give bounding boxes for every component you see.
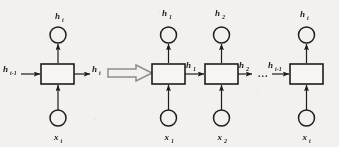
rnn-unrolling-diagram: h t h t-1 h t x t <box>0 0 339 147</box>
step-2-state-out-sub: 2 <box>245 66 249 72</box>
folded-rnn-cell <box>41 64 74 84</box>
step-last-rnn-cell <box>290 64 323 84</box>
folded-output-label-base: h <box>55 11 60 21</box>
folded-input-label-base: x <box>53 132 59 142</box>
step-last-input-base: x <box>302 132 308 142</box>
step-2-output-base: h <box>215 8 220 18</box>
diagram-canvas: h t h t-1 h t x t <box>0 0 339 147</box>
step-1-state-out-sub: 1 <box>193 66 196 72</box>
step-2-input-base: x <box>217 132 223 142</box>
step-1-rnn-cell <box>152 64 185 84</box>
step-2-state-out-base: h <box>239 60 244 70</box>
step-2-output-sub: 2 <box>221 14 225 20</box>
step-last-output-base: h <box>300 9 305 19</box>
step-1-output-base: h <box>162 8 167 18</box>
step-last-state-in-sub: t-1 <box>275 66 282 72</box>
step-2-rnn-cell <box>205 64 238 84</box>
folded-state-out-base: h <box>92 64 97 74</box>
folded-state-in-base: h <box>3 64 8 74</box>
step-1-state-out-base: h <box>186 60 191 70</box>
sequence-ellipsis: ... <box>258 68 269 79</box>
step-1-output-sub: 1 <box>169 14 172 20</box>
step-last-state-in-base: h <box>268 60 273 70</box>
folded-state-in-sub: t-1 <box>10 70 17 76</box>
step-2-input-sub: 2 <box>223 138 227 144</box>
step-1-input-sub: 1 <box>171 138 174 144</box>
step-1-input-base: x <box>164 132 170 142</box>
